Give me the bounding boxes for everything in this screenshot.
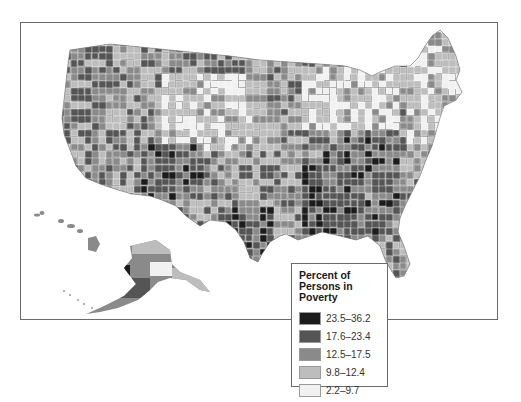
legend-label: 9.8–12.4 bbox=[326, 367, 365, 378]
legend-swatch bbox=[299, 384, 321, 397]
legend-label: 17.6–23.4 bbox=[326, 331, 371, 342]
choropleth-map bbox=[0, 0, 521, 402]
legend: Percent of Persons in Poverty 23.5–36.2 … bbox=[291, 263, 388, 387]
legend-swatch bbox=[299, 330, 321, 343]
legend-item: 23.5–36.2 bbox=[299, 309, 381, 327]
legend-label: 23.5–36.2 bbox=[326, 313, 371, 324]
alaska bbox=[80, 235, 220, 320]
county-grid bbox=[50, 25, 471, 292]
legend-label: 2.2–9.7 bbox=[326, 385, 359, 396]
aleutian-islands bbox=[63, 290, 93, 309]
legend-title: Percent of Persons in Poverty bbox=[299, 270, 381, 303]
legend-swatch bbox=[299, 312, 321, 325]
legend-item: 12.5–17.5 bbox=[299, 345, 381, 363]
legend-swatch bbox=[299, 348, 321, 361]
legend-swatch bbox=[299, 366, 321, 379]
hawaii bbox=[34, 211, 100, 252]
continental-us bbox=[50, 25, 471, 292]
legend-label: 12.5–17.5 bbox=[326, 349, 371, 360]
legend-item: 9.8–12.4 bbox=[299, 363, 381, 381]
legend-item: 17.6–23.4 bbox=[299, 327, 381, 345]
legend-item: 2.2–9.7 bbox=[299, 381, 381, 399]
